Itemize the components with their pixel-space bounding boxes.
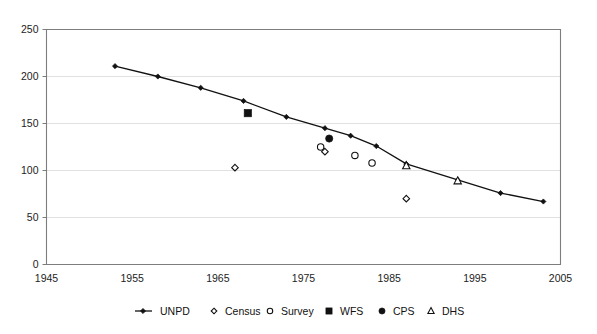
chart-figure: 050100150200250 194519551965197519851995…	[0, 0, 597, 334]
series-survey-point-1-marker-open-circle	[352, 152, 358, 158]
legend-cps-marker-filled-circle	[379, 308, 385, 314]
legend-label-survey: Survey	[281, 305, 314, 317]
x-tick-label-1975: 1975	[292, 272, 316, 284]
x-tick-label-1945: 1945	[35, 272, 59, 284]
series-survey-point-2-marker-open-circle	[369, 160, 375, 166]
legend-label-unpd: UNPD	[160, 305, 190, 317]
y-tick-label-100: 100	[21, 164, 39, 176]
x-tick-label-1955: 1955	[120, 272, 144, 284]
figure-background	[0, 0, 597, 334]
series-wfs-point-0-marker-filled-square	[244, 110, 251, 117]
y-tick-label-150: 150	[21, 117, 39, 129]
legend-label-census: Census	[225, 305, 261, 317]
chart-canvas: 050100150200250 194519551965197519851995…	[0, 0, 597, 334]
x-tick-label-1985: 1985	[377, 272, 401, 284]
y-tick-label-250: 250	[21, 23, 39, 35]
legend-label-dhs: DHS	[442, 305, 464, 317]
series-cps-point-0-marker-filled-circle	[326, 135, 333, 142]
y-tick-label-0: 0	[33, 258, 39, 270]
y-tick-label-50: 50	[27, 211, 39, 223]
legend-label-cps: CPS	[393, 305, 415, 317]
x-tick-label-1995: 1995	[463, 272, 487, 284]
legend-label-wfs: WFS	[340, 305, 363, 317]
x-tick-label-1965: 1965	[206, 272, 230, 284]
series-cps	[326, 135, 333, 142]
series-survey-point-0-marker-open-circle	[317, 144, 323, 150]
legend-wfs-marker-filled-square	[326, 308, 332, 314]
legend-survey-marker-open-circle	[267, 308, 272, 313]
series-wfs	[244, 110, 251, 117]
y-tick-label-200: 200	[21, 70, 39, 82]
x-tick-label-2005: 2005	[549, 272, 573, 284]
